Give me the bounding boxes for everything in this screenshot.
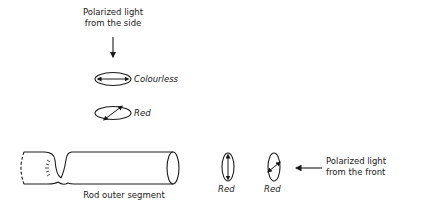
rod-outer-segment-icon [21, 152, 179, 184]
rod-outer-segment-label: Rod outer segment [74, 190, 174, 201]
front-light-label-line1: Polarized light [326, 156, 402, 167]
state-label-red-side: Red [134, 108, 151, 118]
state-label-red-front-diagonal: Red [264, 184, 281, 194]
side-light-label-line2: from the side [80, 18, 146, 29]
ellipse-vertical-diagonal-icon [268, 153, 280, 181]
diagram-canvas [0, 0, 428, 214]
ellipse-vertical-icon [222, 153, 234, 181]
ellipse-horizontal-icon [95, 73, 131, 86]
side-light-label-line1: Polarized light [80, 7, 146, 18]
side-light-label: Polarized light from the side [80, 7, 146, 29]
state-label-colourless: Colourless [134, 74, 178, 84]
front-light-label: Polarized light from the front [326, 156, 402, 178]
state-label-red-front-vertical: Red [218, 184, 235, 194]
ellipse-diagonal-icon [95, 107, 131, 120]
front-light-label-line2: from the front [326, 167, 402, 178]
